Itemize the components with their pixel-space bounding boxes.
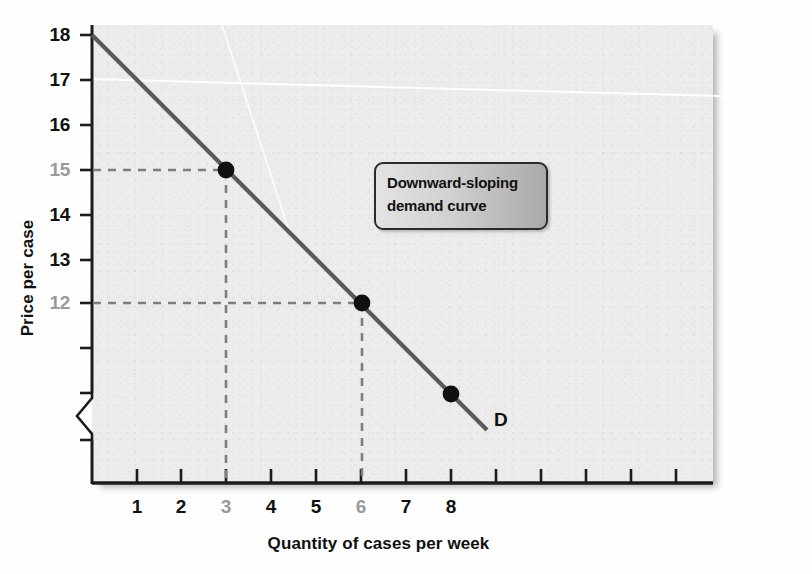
y-tick-marks (80, 35, 92, 440)
demand-curve-line (92, 35, 487, 430)
x-tick-label-8: 8 (436, 496, 466, 518)
x-tick-label-6: 6 (346, 496, 376, 518)
x-tick-label-3: 3 (211, 496, 241, 518)
data-point-6-12 (354, 295, 371, 312)
y-tick-label-17: 17 (24, 69, 70, 91)
x-tick-label-7: 7 (391, 496, 421, 518)
y-tick-label-15: 15 (24, 159, 70, 181)
downward-sloping-callout: Downward-sloping demand curve (374, 162, 548, 230)
x-axis-title: Quantity of cases per week (0, 534, 757, 554)
callout-line-1: Downward-sloping (387, 172, 537, 195)
y-tick-label-16: 16 (24, 114, 70, 136)
x-tick-marks (137, 469, 676, 483)
y-axis (77, 25, 92, 484)
x-tick-label-2: 2 (166, 496, 196, 518)
y-tick-label-18: 18 (24, 24, 70, 46)
y-axis-title: Price per case (18, 198, 38, 358)
demand-curve-label: D (494, 409, 508, 431)
data-point-3-15 (218, 162, 235, 179)
guide-lines-point-a (93, 170, 226, 482)
x-tick-label-1: 1 (122, 496, 152, 518)
guide-lines-point-b (93, 303, 362, 482)
callout-line-2: demand curve (387, 195, 537, 218)
x-tick-label-5: 5 (301, 496, 331, 518)
axis-break-zigzag (77, 393, 92, 440)
data-point-8 (443, 386, 460, 403)
x-tick-label-4: 4 (256, 496, 286, 518)
